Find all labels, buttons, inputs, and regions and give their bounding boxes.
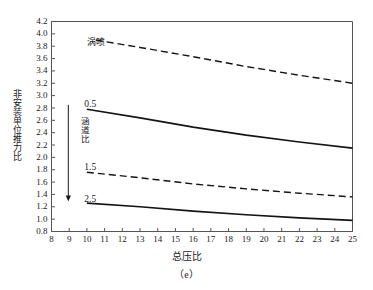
- x-tick-label: 9: [67, 234, 72, 244]
- y-tick-label: 2.6: [36, 115, 48, 125]
- y-tick-label: 3.6: [36, 53, 48, 63]
- x-tick-label: 12: [118, 234, 127, 244]
- series-line: [87, 109, 353, 148]
- x-axis-ticks: 8910111213141516171819202122232425: [49, 228, 357, 244]
- chart-figure: 非安装单位推力比 0.81.01.21.41.61.82.02.22.42.62…: [0, 0, 373, 290]
- x-tick-label: 13: [136, 234, 146, 244]
- figure-caption: （e）: [0, 266, 373, 281]
- y-tick-label: 2.4: [36, 127, 48, 137]
- bypass-ratio-group-label: 涵道比: [78, 117, 88, 144]
- y-tick-label: 4.2: [36, 16, 47, 26]
- annotation-bypass-25: 2.5: [84, 194, 96, 204]
- x-tick-label: 8: [49, 234, 54, 244]
- y-tick-label: 1.4: [36, 189, 48, 199]
- x-tick-label: 19: [242, 234, 252, 244]
- x-tick-label: 20: [259, 234, 269, 244]
- x-tick-label: 16: [189, 234, 199, 244]
- y-tick-label: 1.8: [36, 164, 48, 174]
- x-tick-label: 22: [295, 234, 304, 244]
- x-tick-label: 23: [313, 234, 323, 244]
- plot-frame: [52, 22, 353, 232]
- y-axis-ticks: 0.81.01.21.41.61.82.02.22.42.62.83.03.23…: [36, 16, 55, 236]
- x-tick-label: 21: [277, 234, 286, 244]
- y-tick-label: 1.6: [36, 177, 48, 187]
- y-tick-label: 2.2: [36, 140, 47, 150]
- x-tick-label: 18: [224, 234, 234, 244]
- y-tick-label: 4.0: [36, 28, 48, 38]
- plot-area: 0.81.01.21.41.61.82.02.22.42.62.83.03.23…: [0, 0, 373, 290]
- y-tick-label: 3.2: [36, 78, 47, 88]
- annotation-turbojet: 涡喷: [87, 37, 105, 47]
- x-axis-label: 总压比: [0, 248, 373, 263]
- y-tick-label: 3.0: [36, 90, 48, 100]
- axis-frame: [52, 22, 353, 232]
- series-line: [87, 203, 353, 220]
- x-tick-label: 24: [330, 234, 340, 244]
- x-tick-label: 25: [348, 234, 358, 244]
- y-tick-label: 3.8: [36, 41, 48, 51]
- data-series-group: [87, 40, 353, 220]
- series-line: [96, 40, 353, 83]
- y-tick-label: 1.0: [36, 214, 48, 224]
- x-tick-label: 15: [171, 234, 181, 244]
- y-tick-label: 0.8: [36, 226, 48, 236]
- y-tick-label: 2.8: [36, 103, 48, 113]
- series-line: [87, 172, 353, 197]
- x-tick-label: 14: [153, 234, 163, 244]
- annotation-bypass-05: 0.5: [84, 99, 96, 109]
- x-tick-label: 11: [100, 234, 109, 244]
- y-tick-label: 2.0: [36, 152, 48, 162]
- y-tick-label: 1.2: [36, 201, 47, 211]
- x-tick-label: 10: [82, 234, 92, 244]
- annotation-bypass-15: 1.5: [84, 162, 96, 172]
- y-tick-label: 3.4: [36, 65, 48, 75]
- x-tick-label: 17: [206, 234, 216, 244]
- bypass-ratio-arrow-head: [66, 196, 71, 202]
